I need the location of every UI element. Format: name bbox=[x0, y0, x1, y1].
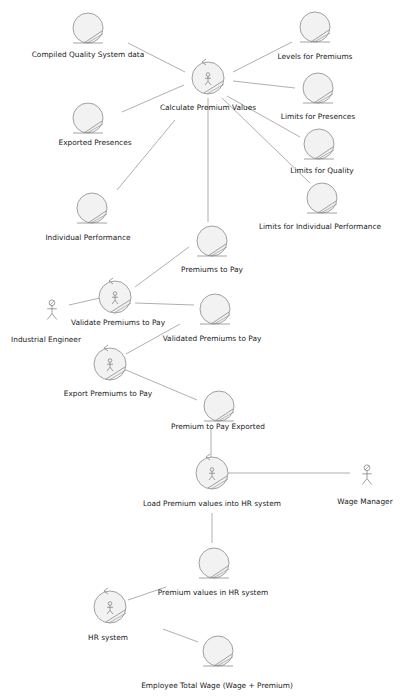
actor-label: Industrial Engineer bbox=[11, 335, 81, 344]
control-label: HR system bbox=[88, 633, 128, 642]
entity-exported_presences[interactable] bbox=[73, 103, 103, 133]
association-line bbox=[233, 81, 295, 88]
control-load_premium_hr[interactable] bbox=[196, 454, 228, 489]
control-calculate_premium[interactable] bbox=[192, 59, 224, 94]
entity-icon bbox=[197, 226, 227, 256]
entity-limits_individual[interactable] bbox=[307, 183, 337, 213]
entity-limits_quality[interactable] bbox=[304, 129, 334, 159]
entitie-label: Limits for Quality bbox=[290, 166, 353, 175]
control-hr_system[interactable] bbox=[94, 588, 126, 623]
entity-icon bbox=[300, 12, 330, 42]
entity-icon bbox=[77, 193, 107, 223]
entitie-label: Premium to Pay Exported bbox=[171, 422, 265, 431]
entity-validated_premiums[interactable] bbox=[200, 294, 230, 324]
entitie-label: Limits for Individual Performance bbox=[259, 222, 381, 231]
entity-icon bbox=[303, 73, 333, 103]
entitie-label: Levels for Premiums bbox=[278, 52, 353, 61]
entity-employee_total_wage[interactable] bbox=[203, 636, 233, 666]
entitie-label: Validated Premiums to Pay bbox=[163, 334, 262, 343]
entity-premiums_to_pay[interactable] bbox=[197, 226, 227, 256]
actor-label: Wage Manager bbox=[337, 497, 392, 506]
entitie-label: Individual Performance bbox=[45, 233, 130, 242]
entity-icon bbox=[304, 129, 334, 159]
control-label: Load Premium values into HR system bbox=[143, 499, 281, 508]
control-validate_premiums[interactable] bbox=[99, 278, 131, 313]
entity-icon bbox=[203, 636, 233, 666]
entity-individual_performance[interactable] bbox=[77, 193, 107, 223]
actor-industrial_engineer[interactable] bbox=[47, 300, 57, 320]
entitie-label: Limits for Presences bbox=[281, 112, 355, 121]
entitie-label: Premium values in HR system bbox=[158, 588, 268, 597]
entity-icon bbox=[73, 13, 103, 43]
entity-premium_exported[interactable] bbox=[204, 391, 234, 421]
control-label: Calculate Premium Values bbox=[160, 103, 256, 112]
entity-icon bbox=[200, 294, 230, 324]
entity-premium_values_hr[interactable] bbox=[199, 548, 229, 578]
entity-icon bbox=[199, 548, 229, 578]
actor-icon bbox=[362, 465, 372, 485]
association-line bbox=[69, 298, 100, 305]
actor-wage_manager[interactable] bbox=[362, 465, 372, 485]
entity-icon bbox=[73, 103, 103, 133]
entity-compiled_quality[interactable] bbox=[73, 13, 103, 43]
entitie-label: Employee Total Wage (Wage + Premium) bbox=[141, 681, 293, 690]
actor-icon bbox=[47, 300, 57, 320]
control-export_premiums[interactable] bbox=[94, 345, 126, 380]
entity-levels_premiums[interactable] bbox=[300, 12, 330, 42]
control-label: Export Premiums to Pay bbox=[64, 389, 152, 398]
entity-icon bbox=[204, 391, 234, 421]
entity-icon bbox=[307, 183, 337, 213]
association-line bbox=[163, 629, 198, 642]
entity-limits_presences[interactable] bbox=[303, 73, 333, 103]
entitie-label: Compiled Quality System data bbox=[32, 50, 145, 59]
association-line bbox=[135, 303, 194, 305]
entitie-label: Exported Presences bbox=[58, 138, 131, 147]
association-line bbox=[117, 120, 175, 190]
entitie-label: Premiums to Pay bbox=[181, 265, 243, 274]
control-label: Validate Premiums to Pay bbox=[71, 318, 165, 327]
